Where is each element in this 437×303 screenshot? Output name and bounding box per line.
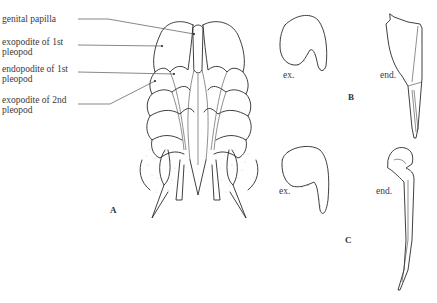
callout-exopodite-2nd-pleopod: exopodite of 2nd pleopod xyxy=(2,95,82,115)
panel-c-exopodite-label: ex. xyxy=(279,186,290,196)
panel-label-b: B xyxy=(348,92,354,102)
panel-c-exopodite xyxy=(281,146,329,213)
stipple-shading xyxy=(146,150,249,196)
callout-genital-papilla: genital papilla xyxy=(2,14,82,24)
panel-c-endopodite xyxy=(388,148,414,291)
panel-b-endopodite-label: end. xyxy=(380,70,396,80)
panel-b-exopodite-label: ex. xyxy=(283,70,294,80)
panel-c-endopodite-label: end. xyxy=(376,186,392,196)
panel-label-c: C xyxy=(345,235,352,245)
callout-endopodite-1st-pleopod: endopodite of 1st pleopod xyxy=(2,64,82,84)
panel-b-exopodite xyxy=(279,15,327,70)
callout-exopodite-1st-pleopod: exopodite of 1st pleopod xyxy=(2,37,82,57)
panel-a-drawing xyxy=(140,22,258,218)
callout-leaders xyxy=(78,19,195,104)
scientific-figure: genital papilla exopodite of 1st pleopod… xyxy=(0,0,437,303)
panel-label-a: A xyxy=(110,205,117,215)
